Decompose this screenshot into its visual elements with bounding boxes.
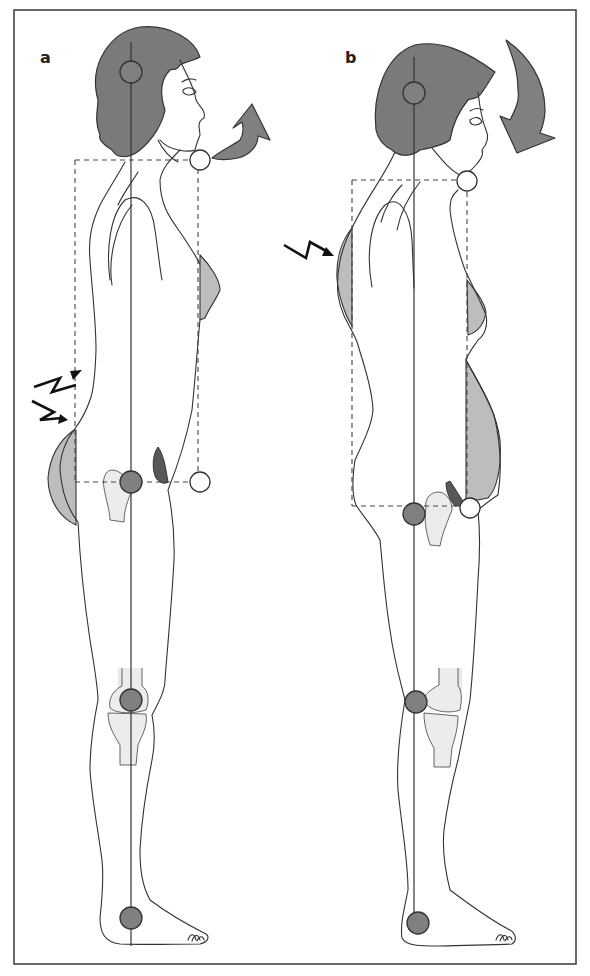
toes-a bbox=[188, 935, 204, 941]
panel-label-b: b bbox=[345, 48, 356, 67]
shoulder-strand-a1 bbox=[111, 205, 132, 285]
eye-b bbox=[470, 118, 482, 125]
hip-joint-a bbox=[120, 471, 142, 493]
arm-outline-a bbox=[109, 198, 162, 280]
pubis-marker-a bbox=[190, 472, 210, 492]
pain-indicator-icon-b1 bbox=[284, 242, 334, 258]
body-outline-a bbox=[60, 150, 208, 944]
ear-joint-b bbox=[403, 82, 425, 104]
head-rotation-arrow-down bbox=[500, 40, 555, 153]
chin-marker-b bbox=[457, 171, 477, 191]
hair-a bbox=[96, 27, 200, 157]
arm-outline-b bbox=[369, 202, 414, 288]
body-outline-b bbox=[338, 152, 516, 946]
knee-lower-b bbox=[424, 713, 458, 767]
chest-shade-a bbox=[200, 255, 220, 320]
ear-joint-a bbox=[120, 61, 142, 83]
posture-diagram: a bbox=[0, 0, 590, 976]
hair-b bbox=[375, 44, 495, 156]
shoulder-strand-b2 bbox=[397, 182, 420, 230]
head-rotation-arrow-up bbox=[212, 104, 270, 160]
panel-a: a bbox=[32, 27, 270, 946]
panel-b: b bbox=[284, 40, 555, 946]
knee-joint-a bbox=[120, 689, 142, 711]
toes-b bbox=[496, 935, 512, 941]
femur-b bbox=[425, 492, 452, 546]
upper-back-shade bbox=[337, 228, 352, 326]
panel-label-a: a bbox=[40, 48, 51, 67]
hip-joint-b bbox=[403, 503, 425, 525]
knee-joint-b bbox=[405, 691, 427, 713]
brow-a bbox=[182, 79, 196, 82]
knee-upper-b bbox=[424, 668, 461, 712]
buttock-shade bbox=[48, 430, 76, 525]
alignment-box-b bbox=[352, 180, 467, 506]
pubic-wedge-a bbox=[153, 447, 168, 483]
neck-front-a bbox=[158, 140, 178, 162]
pubis-marker-b bbox=[460, 498, 480, 518]
abdomen-shade bbox=[466, 360, 500, 502]
ankle-joint-b bbox=[407, 912, 429, 934]
shoulder-strand-a2 bbox=[118, 172, 138, 205]
alignment-box-a bbox=[75, 160, 198, 482]
chin-marker-a bbox=[190, 150, 210, 170]
ankle-joint-a bbox=[120, 907, 142, 929]
pain-indicator-icon-a2 bbox=[32, 401, 68, 424]
knee-lower-a bbox=[108, 713, 146, 765]
